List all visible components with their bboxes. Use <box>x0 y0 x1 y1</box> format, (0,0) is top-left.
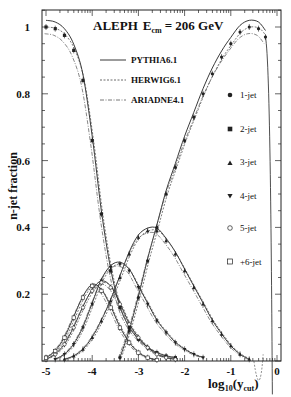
y-axis-label: n-jet fraction <box>6 152 20 220</box>
x-tick-labels: -5 -4 -3 -2 -1 0 <box>41 365 280 377</box>
chart: 0.2 0.4 0.6 0.8 1 -5 -4 -3 -2 -1 0 n-jet… <box>0 0 291 397</box>
filled-circle-icon <box>228 93 233 98</box>
x-axis-label: log10(ycut) <box>208 376 258 393</box>
y-tick-label: 0.8 <box>16 88 30 100</box>
x-tick-label: 0 <box>274 365 280 377</box>
jet-legend: 1-jet 2-jet 3-jet 4-jet 5-jet +6-jet <box>227 90 262 267</box>
x-tick-label: -5 <box>41 365 51 377</box>
x-tick-label: -3 <box>134 365 144 377</box>
open-square-icon <box>228 259 233 264</box>
open-circle-icon <box>228 226 233 231</box>
legend-label: 2-jet <box>240 124 257 134</box>
chart-title: ALEPHEcm= 206 GeV <box>93 18 224 35</box>
y-tick-label: 0.2 <box>16 288 30 300</box>
legend-label: 5-jet <box>240 223 257 233</box>
triangle-down-icon <box>227 194 232 199</box>
legend-label: 1-jet <box>240 90 257 100</box>
x-tick-label: -4 <box>87 365 97 377</box>
y-tick-label: 1 <box>25 21 31 33</box>
legend-label: ARIADNE4.1 <box>131 95 185 105</box>
x-tick-label: -2 <box>180 365 190 377</box>
filled-square-icon <box>228 127 233 132</box>
legend-label: 3-jet <box>240 157 257 167</box>
triangle-up-icon <box>227 161 232 166</box>
model-legend: PYTHIA6.1 HERWIG6.1 ARIADNE4.1 <box>100 55 185 105</box>
legend-label: PYTHIA6.1 <box>131 55 178 65</box>
legend-label: HERWIG6.1 <box>131 75 181 85</box>
legend-label: 4-jet <box>240 191 257 201</box>
legend-label: +6-jet <box>240 257 262 267</box>
y-tick-label: 0.4 <box>16 221 30 233</box>
